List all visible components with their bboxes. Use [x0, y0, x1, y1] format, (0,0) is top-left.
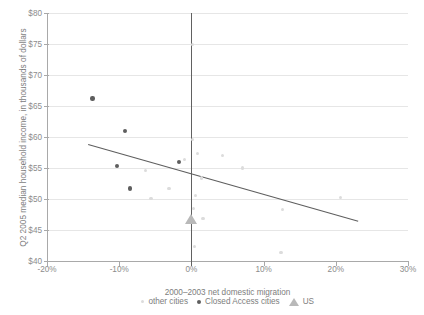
other-city-point: [281, 208, 284, 211]
legend-item-other-cities[interactable]: other cities: [141, 297, 188, 306]
x-tick-mark: [408, 261, 409, 266]
other-city-point: [191, 138, 194, 141]
y-tick-mark: [44, 44, 49, 45]
y-tick-mark: [44, 13, 49, 14]
x-tick-label: 30%: [386, 265, 424, 274]
x-tick-label: 0%: [169, 265, 213, 274]
other-city-point: [191, 43, 194, 46]
y-tick-mark: [44, 137, 49, 138]
y-tick-mark: [44, 168, 49, 169]
closed-access-city-point: [177, 160, 181, 164]
x-tick-label: 20%: [314, 265, 358, 274]
gridline: [47, 75, 408, 76]
gridline: [47, 168, 408, 169]
other-city-point: [167, 187, 170, 190]
y-tick-mark: [44, 199, 49, 200]
other-city-point: [221, 154, 224, 157]
legend-item-us[interactable]: US: [289, 297, 314, 306]
us-marker: [185, 214, 197, 224]
other-city-point: [149, 197, 152, 200]
other-city-point: [241, 166, 244, 169]
x-tick-mark: [264, 261, 265, 266]
other-city-point: [193, 245, 196, 248]
other-city-point: [144, 169, 147, 172]
other-city-point: [194, 194, 197, 197]
other-cities-marker-icon: [141, 300, 144, 303]
x-tick-mark: [336, 261, 337, 266]
gridline: [47, 13, 408, 14]
y-tick-mark: [44, 75, 49, 76]
us-triangle-marker-icon: [289, 298, 299, 306]
gridline: [47, 137, 408, 138]
legend-label-us: US: [303, 297, 314, 306]
gridline: [47, 44, 408, 45]
closed-access-city-point: [90, 96, 94, 100]
x-axis-title: 2000–2003 net domestic migration: [47, 288, 408, 297]
x-tick-mark: [47, 261, 48, 266]
other-city-point: [183, 158, 186, 161]
scatter-chart: $40$45$50$55$60$65$70$75$80 -20%-10%0%10…: [0, 0, 424, 315]
closed-access-cities-marker-icon: [197, 300, 201, 304]
gridline: [47, 230, 408, 231]
legend-label-other-cities: other cities: [148, 297, 188, 306]
x-tick-mark: [119, 261, 120, 266]
closed-access-city-point: [123, 129, 127, 133]
chart-legend: other cities Closed Access cities US: [47, 297, 408, 306]
gridline: [47, 106, 408, 107]
other-city-point: [192, 207, 195, 210]
legend-item-closed-access-cities[interactable]: Closed Access cities: [197, 297, 280, 306]
x-tick-label: 10%: [242, 265, 286, 274]
other-city-point: [279, 251, 282, 254]
other-city-point: [200, 176, 203, 179]
other-city-point: [196, 152, 199, 155]
x-tick-label: -20%: [25, 265, 69, 274]
gridline: [47, 199, 408, 200]
other-city-point: [201, 217, 204, 220]
x-tick-label: -10%: [97, 265, 141, 274]
closed-access-city-point: [128, 186, 132, 190]
y-tick-mark: [44, 106, 49, 107]
legend-label-closed-access-cities: Closed Access cities: [205, 297, 280, 306]
y-tick-mark: [44, 230, 49, 231]
y-axis-title: Q2 2005 median household income, in thou…: [19, 13, 28, 263]
x-axis-line: [47, 261, 408, 262]
